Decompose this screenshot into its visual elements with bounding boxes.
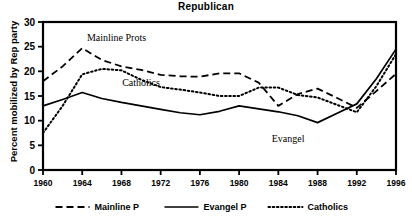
y-axis-tick-label: 30 xyxy=(24,17,36,28)
chart-container: Republican Percent mobilized by Rep part… xyxy=(0,0,412,221)
series-line-evangel-p xyxy=(43,49,396,123)
x-axis-tick-label: 1984 xyxy=(269,178,288,188)
x-axis-tick-label: 1988 xyxy=(308,178,327,188)
y-axis-tick-label: 0 xyxy=(29,165,35,176)
x-axis-tick-label: 1980 xyxy=(230,178,249,188)
annotation-catholics: Catholics xyxy=(122,77,160,88)
annotation-mainline-prots: Mainline Prots xyxy=(87,32,146,43)
x-axis-tick-label: 1996 xyxy=(387,178,406,188)
series-line-mainline-p xyxy=(43,48,396,108)
y-axis-tick-label: 20 xyxy=(24,66,36,77)
y-axis-tick-label: 10 xyxy=(24,115,36,126)
y-axis-tick-label: 5 xyxy=(29,140,35,151)
legend-label-mainline-p: Mainline P xyxy=(95,202,140,212)
x-axis-tick-label: 1992 xyxy=(347,178,366,188)
legend-label-catholics: Catholics xyxy=(308,202,349,212)
annotation-evangel: Evangel xyxy=(272,133,305,144)
plot-area: 0510152025301960196419681972197619801984… xyxy=(0,0,412,221)
y-axis-tick-label: 25 xyxy=(24,41,36,52)
y-axis-tick-label: 15 xyxy=(24,91,36,102)
x-axis-tick-label: 1968 xyxy=(112,178,131,188)
legend-label-evangel-p: Evangel P xyxy=(204,202,247,212)
x-axis-tick-label: 1960 xyxy=(34,178,53,188)
x-axis-tick-label: 1972 xyxy=(151,178,170,188)
series-line-catholics xyxy=(43,54,396,133)
x-axis-tick-label: 1964 xyxy=(73,178,92,188)
x-axis-tick-label: 1976 xyxy=(190,178,209,188)
